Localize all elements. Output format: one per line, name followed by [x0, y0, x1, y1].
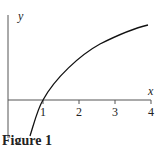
figure-caption: Figure 1	[2, 133, 52, 145]
tick-label-4: 4	[148, 105, 154, 119]
tick-label-1: 1	[40, 105, 46, 119]
x-axis-label: x	[147, 84, 154, 98]
y-axis-label: y	[17, 9, 24, 23]
curve-ln-x	[30, 25, 148, 136]
plot: 1 2 3 4 x y	[0, 0, 162, 145]
tick-label-3: 3	[112, 105, 118, 119]
tick-label-2: 2	[76, 105, 82, 119]
